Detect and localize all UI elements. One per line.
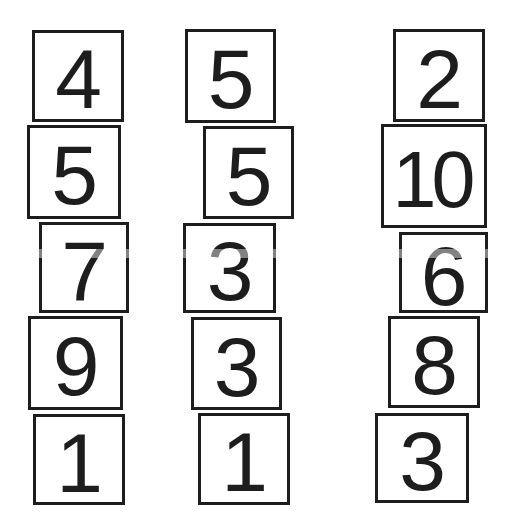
block-number: 3 — [207, 229, 253, 313]
block-number: 6 — [421, 234, 467, 318]
block-number: 8 — [411, 323, 457, 407]
number-block: 3 — [375, 413, 469, 503]
block-number: 7 — [61, 229, 107, 313]
block-number: 4 — [55, 37, 101, 121]
number-block: 2 — [393, 29, 485, 122]
block-number: 5 — [208, 37, 254, 121]
number-block: 1 — [33, 414, 125, 505]
block-number: 1 — [56, 421, 102, 505]
number-block: 10 — [381, 124, 487, 228]
number-block: 6 — [399, 232, 488, 313]
number-block: 5 — [185, 29, 276, 123]
blocks-stage: 4 5 7 9 1 5 5 3 3 1 2 — [0, 0, 521, 523]
block-number: 2 — [416, 37, 462, 121]
block-number: 5 — [51, 133, 97, 217]
number-block: 3 — [191, 317, 282, 410]
number-block: 5 — [203, 126, 294, 219]
block-number: 9 — [53, 324, 99, 408]
number-block: 7 — [39, 222, 129, 313]
block-number: 3 — [214, 325, 260, 409]
number-block: 8 — [388, 316, 480, 408]
number-block: 3 — [183, 223, 276, 313]
number-block: 9 — [28, 316, 123, 410]
block-number: 10 — [393, 140, 476, 219]
number-block: 1 — [198, 413, 290, 505]
block-number: 1 — [221, 420, 267, 504]
block-number: 3 — [399, 419, 445, 503]
number-block: 4 — [32, 30, 124, 122]
block-number: 5 — [226, 134, 272, 218]
number-block: 5 — [27, 125, 121, 219]
